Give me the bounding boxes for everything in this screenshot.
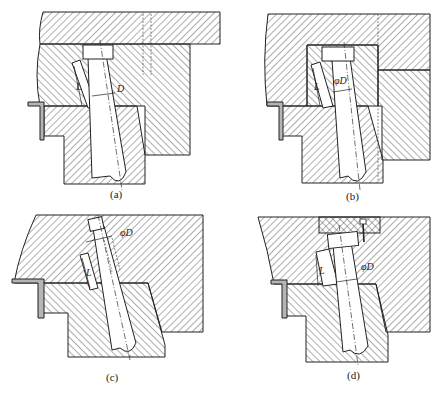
- pin-head: [83, 45, 113, 59]
- dimension-label-phiD: φD: [120, 227, 134, 238]
- side-rail: [28, 102, 44, 140]
- screw-head-icon: [360, 219, 366, 224]
- panel-d: φD L (d): [258, 217, 430, 382]
- panel-c: φD L (c): [12, 215, 203, 384]
- top-plate: [39, 12, 220, 44]
- dimension-label-phiD: φD: [361, 261, 375, 272]
- panel-caption-d: (d): [347, 369, 360, 382]
- screw-shank-icon: [363, 224, 364, 242]
- pin-head: [322, 47, 354, 61]
- dimension-label-L: L: [313, 81, 320, 92]
- right-block: [378, 70, 430, 160]
- dimension-label-D: D: [116, 83, 125, 94]
- bottom-block: [285, 284, 388, 362]
- dimension-label-phiD: φD: [334, 75, 348, 86]
- panel-b: φD L (b): [265, 14, 430, 203]
- bottom-block: [281, 106, 383, 183]
- dimension-label-L: L: [75, 81, 82, 92]
- side-rail: [12, 279, 44, 318]
- dimension-label-L: L: [85, 267, 92, 278]
- panel-a: D L (a): [28, 12, 220, 201]
- panel-caption-c: (c): [106, 371, 119, 384]
- side-rail: [271, 280, 287, 318]
- panel-caption-b: (b): [346, 190, 359, 203]
- panel-caption-a: (a): [110, 188, 123, 201]
- diagram-canvas: D L (a) φD L (b) φD L (: [0, 0, 443, 399]
- side-rail: [267, 102, 283, 140]
- clamp-plate: [319, 217, 380, 233]
- dimension-label-L: L: [318, 265, 325, 276]
- pin-head: [327, 231, 358, 248]
- pin-head: [88, 217, 104, 232]
